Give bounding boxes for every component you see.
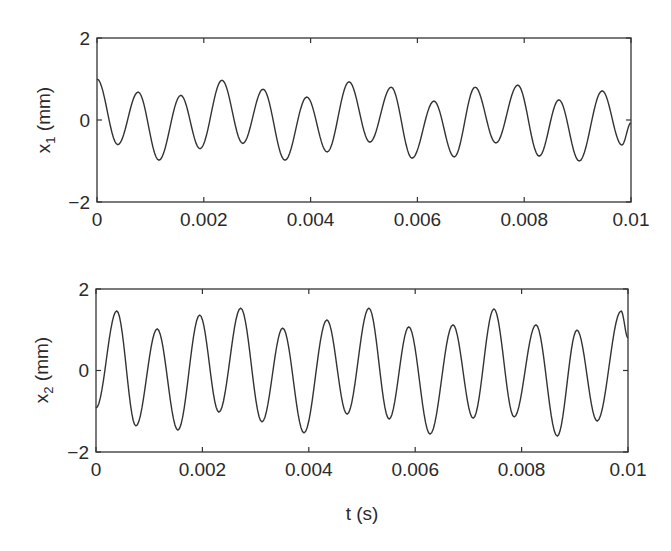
- x1-xtick-0.01: 0.01: [613, 209, 650, 230]
- x1-xtick-0.002: 0.002: [180, 209, 228, 230]
- x2-xtick-0.01: 0.01: [610, 459, 647, 480]
- x2-xtick-0.002: 0.002: [179, 459, 227, 480]
- x2-plot: 2 0 −2 0 0.002 0.004 0.006 0.008 0.01 x2…: [31, 279, 646, 480]
- x1-xtick-0: 0: [92, 209, 103, 230]
- figure: 2 0 −2 0 0.002 0.004 0.006 0.008 0.01 x1…: [0, 0, 671, 551]
- x2-xtick-0.004: 0.004: [285, 459, 333, 480]
- x2-ytick-0: 0: [78, 360, 89, 381]
- x2-xtick-0.008: 0.008: [498, 459, 546, 480]
- x1-xtick-0.008: 0.008: [500, 209, 548, 230]
- x1-ytick-neg2: −2: [68, 192, 90, 213]
- x2-ylabel: x2 (mm): [31, 337, 56, 403]
- x1-ytick-2: 2: [79, 28, 90, 49]
- x-axis-label: t (s): [346, 503, 379, 524]
- x2-ytick-neg2: −2: [67, 442, 89, 463]
- x1-plot: 2 0 −2 0 0.002 0.004 0.006 0.008 0.01 x1…: [33, 28, 649, 230]
- x1-line: [97, 79, 631, 161]
- x1-xtick-0.006: 0.006: [394, 209, 442, 230]
- x2-xtick-0: 0: [91, 459, 102, 480]
- x2-xtick-0.006: 0.006: [391, 459, 439, 480]
- x1-ylabel: x1 (mm): [33, 87, 58, 153]
- x2-ytick-2: 2: [78, 279, 89, 300]
- x2-line: [96, 308, 628, 436]
- x1-xtick-0.004: 0.004: [287, 209, 335, 230]
- x1-ytick-0: 0: [79, 110, 90, 131]
